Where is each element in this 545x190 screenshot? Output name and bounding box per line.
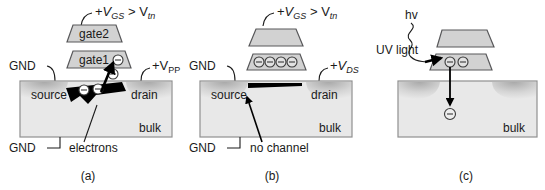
panel-b-bias-v1-sub: GS	[293, 11, 306, 21]
panel-b-gnd-bottom-label: GND	[189, 141, 216, 155]
panel-a-bulk-label: bulk	[139, 121, 162, 135]
panel-a-electrons-annotation: electrons	[69, 141, 118, 155]
eprom-figure: +VGS > Vtn gate2 gate1 GND +VPP	[0, 0, 545, 190]
panel-b-bias-prefix: +	[277, 4, 285, 19]
panel-a-gnd-bottom-leader	[47, 137, 60, 148]
panel-a-vpp-v: V	[160, 58, 169, 73]
panel-b-vds-leader	[319, 68, 328, 81]
panel-a-vpp-prefix: +	[152, 58, 160, 73]
panel-a-gnd-bottom-label: GND	[9, 141, 36, 155]
panel-c-bulk-label: bulk	[503, 121, 526, 135]
panel-a-channel-electron-1	[79, 85, 89, 95]
panel-a-bias-v2-sub: tn	[148, 11, 156, 21]
panel-a: +VGS > Vtn gate2 gate1 GND +VPP	[9, 4, 180, 183]
panel-b-bias-relation: >	[310, 4, 318, 19]
panel-a-vpp-label: +VPP	[152, 58, 180, 75]
panel-a-bias-prefix: +	[95, 4, 103, 19]
panel-b-source-label: source	[211, 88, 247, 102]
panel-b-bias-v2-sub: tn	[330, 11, 338, 21]
panel-c-control-gate	[437, 30, 494, 47]
panel-b-bias-label: +VGS > Vtn	[277, 4, 337, 21]
panel-a-floating-gate-label: gate1	[79, 53, 109, 67]
panel-a-drain-label: drain	[131, 88, 158, 102]
panel-b-electron-on-gate-3	[276, 57, 286, 67]
panel-a-bias-relation: >	[128, 4, 136, 19]
panel-b-gnd-bottom-leader	[227, 137, 240, 148]
panel-b-bias-v2: V	[321, 4, 330, 19]
panel-b-vds-sub: DS	[346, 65, 359, 75]
panel-a-gnd-top-leader	[47, 66, 55, 81]
panel-b: +VGS > Vtn GND +VDS	[189, 4, 359, 183]
figure-canvas: +VGS > Vtn gate2 gate1 GND +VPP	[0, 0, 545, 190]
panel-b-electron-on-gate-4	[287, 57, 297, 67]
panel-a-vpp-sub: PP	[168, 65, 180, 75]
panel-a-bias-v1-sub: GS	[111, 11, 124, 21]
panel-c-caption: (c)	[459, 169, 473, 183]
panel-a-bias-leader	[81, 13, 92, 26]
panel-b-gnd-top-label: GND	[189, 59, 216, 73]
panel-c-uv-light-label: UV light	[376, 43, 419, 57]
panel-c: hv UV light bulk (c)	[376, 8, 537, 183]
panel-a-control-gate-label: gate2	[79, 27, 109, 41]
panel-b-vds-prefix: +	[330, 58, 338, 73]
panel-c-electron-on-gate-2	[458, 57, 468, 67]
panel-b-bulk-label: bulk	[319, 121, 342, 135]
panel-b-vds-label: +VDS	[330, 58, 359, 75]
panel-b-electron-on-gate-1	[254, 57, 264, 67]
panel-a-electron-on-gate	[113, 55, 123, 65]
panel-c-electron-on-gate-1	[445, 57, 455, 67]
panel-a-vpp-leader	[141, 68, 150, 81]
panel-a-caption: (a)	[81, 169, 96, 183]
panel-c-photon-label: hv	[405, 8, 418, 22]
panel-b-bias-leader	[263, 13, 274, 26]
panel-b-no-channel-annotation: no channel	[250, 141, 309, 155]
panel-b-control-gate	[249, 29, 303, 46]
panel-a-gnd-top-label: GND	[9, 59, 36, 73]
panel-a-source-label: source	[31, 88, 67, 102]
panel-b-drain-label: drain	[311, 88, 338, 102]
panel-a-bias-v2: V	[139, 4, 148, 19]
panel-a-bias-label: +VGS > Vtn	[95, 4, 155, 21]
panel-c-escaping-electron	[445, 109, 456, 120]
panel-b-gnd-top-leader	[227, 66, 235, 81]
panel-b-caption: (b)	[265, 169, 280, 183]
panel-b-electron-on-gate-2	[265, 57, 275, 67]
